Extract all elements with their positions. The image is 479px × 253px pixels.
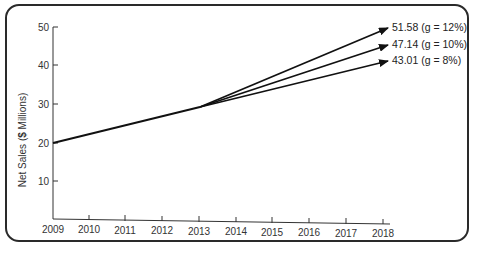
y-tick-30: 30 (38, 99, 50, 110)
y-tick-40: 40 (38, 60, 50, 71)
x-tick-2010: 2010 (78, 224, 101, 235)
x-tick-2013: 2013 (188, 226, 211, 237)
annotation-8pct: 43.01 (g = 8%) (392, 54, 461, 66)
x-tick-2018: 2018 (372, 228, 395, 239)
y-axis-label: Net Sales ($ Millions) (17, 93, 28, 187)
x-tick-2016: 2016 (298, 227, 321, 238)
x-tick-2012: 2012 (151, 225, 174, 236)
x-axis: 2009 2010 2011 2012 2013 2014 2015 2016 … (42, 215, 395, 239)
annotation-10pct: 47.14 (g = 10%) (392, 38, 467, 50)
annotation-12pct: 51.58 (g = 12%) (392, 21, 467, 33)
y-tick-50: 50 (38, 22, 50, 33)
historical-line (53, 107, 200, 143)
series-lines (53, 28, 388, 143)
y-axis: 50 40 30 20 10 Net Sales ($ Millions) (17, 22, 58, 219)
x-tick-2017: 2017 (335, 228, 358, 239)
x-tick-2009: 2009 (42, 224, 65, 235)
net-sales-chart: 50 40 30 20 10 Net Sales ($ Millions) 20… (0, 0, 479, 253)
x-tick-2014: 2014 (225, 226, 248, 237)
y-tick-10: 10 (38, 176, 50, 187)
x-tick-2015: 2015 (261, 227, 284, 238)
y-tick-20: 20 (38, 138, 50, 149)
x-tick-2011: 2011 (114, 225, 136, 236)
projection-10pct-arrow (200, 45, 388, 107)
